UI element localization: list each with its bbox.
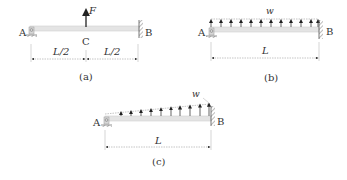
fixed-wall-icon (319, 20, 323, 39)
dim-label: L (261, 45, 269, 56)
beam-diagrams: A B F C L/2 L/2 (a) (0, 0, 347, 180)
label-a: A (18, 27, 27, 38)
caption-a: (a) (79, 71, 93, 82)
panel-a: A B F C L/2 L/2 (a) (18, 5, 152, 82)
dim-label: L (154, 135, 162, 146)
beam (210, 27, 319, 32)
panel-b: w A B L (b) (197, 6, 333, 83)
caption-c: (c) (152, 156, 166, 167)
dim-label: L/2 (103, 46, 120, 57)
panel-c: w A B L (c) (92, 89, 224, 167)
fixed-wall-icon (139, 20, 143, 38)
beam (30, 26, 139, 31)
label-a: A (197, 27, 206, 38)
label-b: B (326, 26, 333, 37)
label-w: w (266, 6, 274, 16)
dim-label: L/2 (52, 46, 69, 57)
triangular-load-arrows (121, 105, 209, 116)
fixed-wall-icon (211, 106, 215, 126)
beam (105, 116, 211, 121)
label-a: A (92, 117, 101, 128)
label-w: w (192, 89, 200, 99)
label-c: C (82, 36, 90, 47)
label-b: B (145, 27, 152, 38)
distributed-load-arrows (211, 21, 318, 27)
label-b: B (217, 116, 224, 127)
label-f: F (88, 5, 97, 16)
caption-b: (b) (264, 72, 278, 83)
